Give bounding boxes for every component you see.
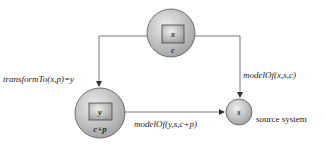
node-x: x c [147,9,195,57]
edge-label-modelof-y: modelOf(y,s,c+p) [134,119,197,129]
node-x-label: x [170,29,176,39]
node-s-label: s [236,107,241,117]
node-y-sublabel: c+p [93,124,107,134]
diagram-canvas: x c y c+p s transformTo(x,p)=y modelOf(x… [0,0,326,146]
node-s: s [226,99,252,125]
edge-label-transform: transformTo(x,p)=y [3,74,74,84]
edge-x-to-y [99,36,147,86]
node-x-sublabel: c [171,45,175,55]
edge-label-modelof-x: modelOf(x,s,c) [243,70,296,80]
source-system-caption: source system [256,114,307,124]
node-y: y c+p [75,88,125,138]
edge-x-to-s [195,36,240,97]
